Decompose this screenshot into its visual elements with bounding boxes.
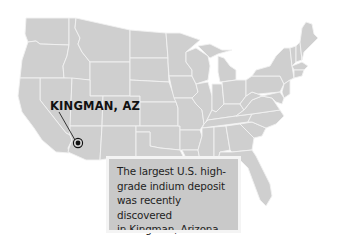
state-wyoming [90,62,130,96]
state-washington [25,18,69,45]
state-kansas [140,102,178,126]
state-michigan-lower [218,56,236,82]
caption-line: The largest U.S. high- [117,164,238,179]
state-north-dakota [130,30,168,58]
caption-line: was recently discovered [117,193,238,222]
caption-line: grade indium deposit [117,179,238,194]
state-maine [300,22,318,60]
caption-line: in Kingman, Arizona. [117,222,238,237]
caption-box: The largest U.S. high- grade indium depo… [109,159,238,230]
state-new-mexico [100,126,136,160]
city-label: KINGMAN, AZ [50,99,140,113]
state-south-dakota [130,58,169,82]
state-connecticut [294,70,304,78]
state-oregon [20,41,69,78]
target-dot-icon [73,138,82,147]
